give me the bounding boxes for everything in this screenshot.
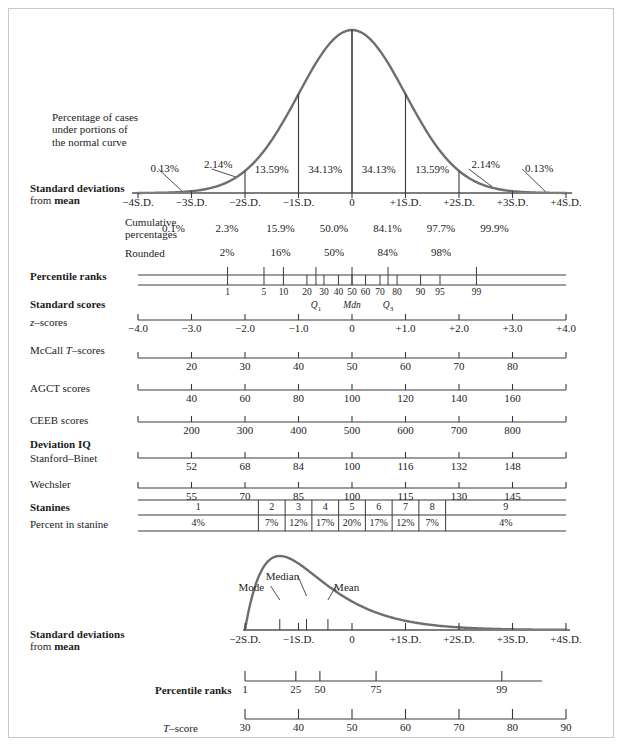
pr-quartiles-item: Q1 (311, 300, 321, 314)
t-ticks-item: 70 (454, 360, 465, 372)
label-percentile-ranks: Percentile ranks (30, 270, 106, 282)
sb-ticks-item: 68 (240, 460, 251, 472)
stanine-bins-item: 8 (430, 501, 435, 512)
sd-ticks-bottom-item: +3S.D. (497, 633, 528, 645)
agct-ticks-item: 160 (504, 392, 521, 404)
wech-ticks-item: 130 (451, 490, 468, 502)
label-wechsler: Wechsler (30, 478, 71, 490)
sd-ticks-top-item: 0 (349, 196, 355, 208)
skew-markers-item: Mode (239, 581, 265, 593)
z-ticks-item: +1.0 (396, 322, 416, 334)
ceeb-ticks-item: 800 (504, 424, 521, 436)
sd-ticks-top-item: −3S.D. (176, 196, 207, 208)
sb-ticks-item: 52 (186, 460, 197, 472)
t-ticks-item: 50 (347, 360, 358, 372)
t2-ticks-item: 60 (400, 721, 411, 733)
label-stanford-binet: Stanford–Binet (30, 452, 97, 464)
t2-ticks-item: 70 (454, 721, 465, 733)
band-pcts-item: 34.13% (308, 163, 342, 175)
pr-quartiles-item: Q3 (383, 300, 393, 314)
pr-ticks-item: 1 (225, 287, 230, 298)
pr2-ticks-item: 75 (371, 683, 382, 695)
cum-pcts-item: 0.1% (162, 222, 185, 234)
std-dev-bottom-line2-bold: mean (54, 640, 80, 652)
label-standard-scores: Standard scores (30, 298, 105, 310)
t-ticks-item: 20 (186, 360, 197, 372)
cum-pcts-item: 2.3% (216, 222, 239, 234)
agct-ticks-item: 40 (186, 392, 197, 404)
pr-ticks-item: 10 (279, 287, 289, 298)
normal-curve-figure: Percentage of casesunder portions ofthe … (0, 0, 624, 755)
stanine-pcts-item: 17% (316, 517, 334, 528)
ceeb-ticks-item: 600 (397, 424, 414, 436)
band-pcts-item: 0.13% (525, 162, 553, 174)
pr-ticks-item: 40 (334, 287, 344, 298)
stanine-pcts-item: 4% (499, 517, 512, 528)
band-pcts-item: 2.14% (204, 158, 232, 170)
pr-ticks-item: 50 (347, 287, 357, 298)
sb-ticks-item: 84 (293, 460, 304, 472)
agct-ticks-item: 100 (344, 392, 361, 404)
z-ticks-item: +3.0 (503, 322, 523, 334)
sd-ticks-top-item: +2S.D. (443, 196, 474, 208)
sd-ticks-top-item: +3S.D. (497, 196, 528, 208)
t-ticks-item: 80 (507, 360, 518, 372)
t2-ticks-item: 50 (347, 721, 358, 733)
stanine-pcts-item: 12% (289, 517, 307, 528)
band-pcts-item: 13.59% (255, 163, 289, 175)
ceeb-ticks-item: 700 (451, 424, 468, 436)
pr-ticks-item: 80 (392, 287, 402, 298)
caption-percentage-of-cases: Percentage of casesunder portions ofthe … (52, 111, 138, 148)
rounded-pcts-item: 98% (431, 246, 451, 258)
t2-ticks-item: 30 (240, 721, 251, 733)
stanine-pcts-item: 7% (265, 517, 278, 528)
std-dev-bottom-line1: Standard deviations (30, 628, 124, 640)
stanine-bins-item: 9 (503, 501, 508, 512)
band-pcts-item: 2.14% (472, 158, 500, 170)
stanine-pcts-item: 4% (192, 517, 205, 528)
agct-ticks-item: 140 (451, 392, 468, 404)
pr2-ticks-item: 50 (314, 683, 325, 695)
pr-ticks-item: 20 (302, 287, 312, 298)
rounded-pcts-item: 2% (220, 246, 235, 258)
pr-ticks-item: 99 (472, 287, 482, 298)
stanine-bins-item: 2 (269, 501, 274, 512)
z-ticks-item: −1.0 (289, 322, 309, 334)
sb-ticks-item: 132 (451, 460, 468, 472)
t2-ticks-item: 40 (293, 721, 304, 733)
pr-ticks-item: 5 (262, 287, 267, 298)
label-rounded: Rounded (125, 247, 165, 259)
label-deviation-iq: Deviation IQ (30, 438, 91, 450)
band-pcts-item: 13.59% (415, 163, 449, 175)
ceeb-ticks-item: 300 (237, 424, 254, 436)
pr-ticks-item: 70 (375, 287, 385, 298)
ceeb-ticks-item: 400 (290, 424, 307, 436)
std-dev-bottom-line2-pre: from (30, 640, 54, 652)
std-dev-label-line2-pre: from (30, 194, 54, 206)
sd-ticks-top-item: +1S.D. (390, 196, 421, 208)
sd-ticks-bottom-item: +1S.D. (390, 633, 421, 645)
pr2-ticks-item: 99 (496, 683, 507, 695)
agct-ticks-item: 60 (240, 392, 251, 404)
cum-pcts-item: 99.9% (480, 222, 508, 234)
t2-ticks-item: 90 (561, 721, 572, 733)
label-mccall-t-scores: McCall T–scores (30, 344, 105, 356)
stanine-bins-item: 5 (350, 501, 355, 512)
stanine-bins-item: 3 (296, 501, 301, 512)
sd-ticks-top-item: −4S.D. (122, 196, 153, 208)
sd-ticks-bottom-item: 0 (349, 633, 355, 645)
wech-ticks-item: 70 (240, 490, 251, 502)
cum-pcts-item: 50.0% (320, 222, 348, 234)
pr-quartiles-item: Mdn (343, 300, 360, 311)
label-agct-scores: AGCT scores (30, 382, 90, 394)
sd-ticks-bottom-item: −2S.D. (229, 633, 260, 645)
rounded-pcts-item: 84% (377, 246, 397, 258)
label-stanines: Stanines (30, 501, 70, 513)
z-ticks-item: −2.0 (235, 322, 255, 334)
band-pcts-item: 0.13% (151, 162, 179, 174)
z-ticks-item: 0 (349, 322, 355, 334)
label-t-score-bottom: T–score (163, 722, 198, 734)
sb-ticks-item: 100 (344, 460, 361, 472)
z-ticks-item: −4.0 (128, 322, 148, 334)
pr-ticks-item: 60 (361, 287, 371, 298)
